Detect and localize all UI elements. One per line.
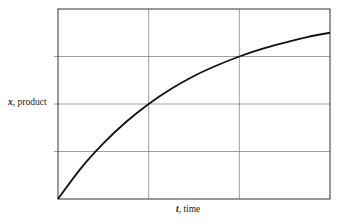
grid-lines	[54, 9, 330, 199]
x-axis-label: t, time	[176, 204, 200, 214]
y-axis-label: x, product	[8, 97, 47, 107]
data-curve	[58, 33, 330, 199]
chart-canvas	[0, 0, 340, 224]
x-axis-text: , time	[179, 204, 201, 214]
y-axis-text: , product	[13, 97, 47, 107]
